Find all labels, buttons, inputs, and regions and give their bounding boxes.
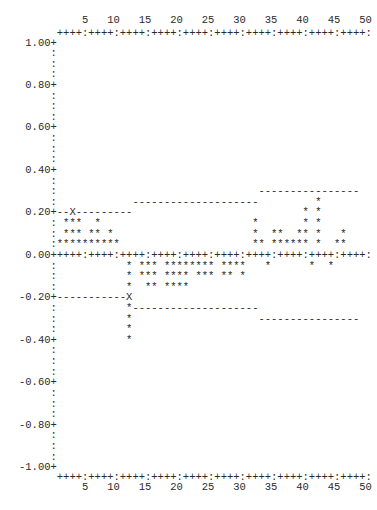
x-tick-labels-top: 5 10 15 20 25 30 35 40 45 50 bbox=[19, 15, 372, 26]
ascii-plot: 5 10 15 20 25 30 35 40 45 50 ++++:++++:+… bbox=[0, 0, 377, 510]
x-tick-labels-bottom: 5 10 15 20 25 30 35 40 45 50 bbox=[19, 482, 372, 493]
plot-row: 0.00+++++:++++:++++:++++:++++:++++:++++:… bbox=[19, 250, 372, 261]
x-axis-top: ++++:++++:++++:++++:++++:++++:++++:++++:… bbox=[19, 28, 372, 39]
plot-row: 0.80+ bbox=[19, 80, 57, 91]
plot-row: : bbox=[19, 388, 57, 399]
plot-row: 0.40+ bbox=[19, 165, 57, 176]
